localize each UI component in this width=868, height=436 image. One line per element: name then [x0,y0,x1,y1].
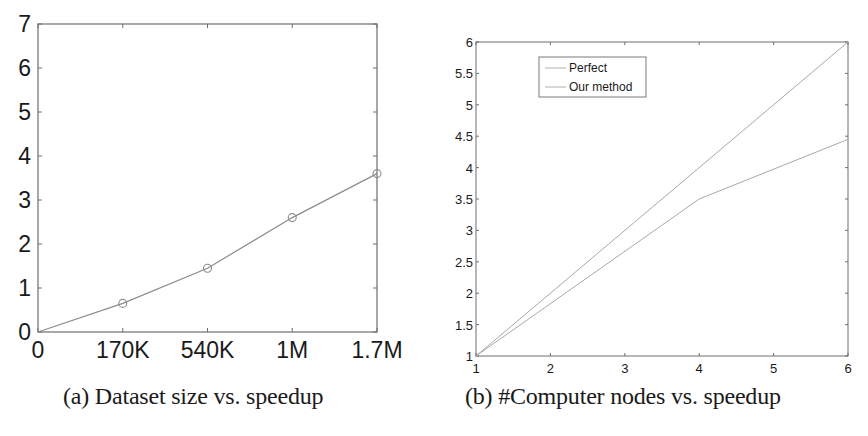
y-tick-label: 2 [18,231,31,257]
x-tick-label: 1.7M [351,337,402,363]
x-tick-label: 1 [472,361,479,376]
series-line-our-method [476,139,848,356]
y-tick-label: 1.5 [455,318,473,333]
x-tick-label: 170K [96,337,150,363]
y-tick-label: 0 [18,319,31,345]
caption-a: (a) Dataset size vs. speedup [63,383,323,410]
chart-dataset-size-vs-speedup: 012345670170K540K1M1.7M [18,11,402,363]
legend-label: Perfect [569,61,608,75]
y-tick-label: 5 [18,99,31,125]
x-tick-label: 2 [547,361,554,376]
caption-b: (b) #Computer nodes vs. speedup [465,383,781,410]
figure: 012345670170K540K1M1.7M 11.522.533.544.5… [0,0,868,436]
series-line [38,174,377,332]
x-tick-label: 6 [844,361,851,376]
chart-computer-nodes-vs-speedup: 11.522.533.544.555.56123456PerfectOur me… [455,35,852,376]
y-tick-label: 5.5 [455,66,473,81]
x-tick-label: 540K [181,337,235,363]
x-tick-label: 5 [770,361,777,376]
x-tick-label: 4 [696,361,703,376]
y-tick-label: 3 [18,187,31,213]
y-tick-label: 5 [466,98,473,113]
legend-label: Our method [569,80,632,94]
x-tick-label: 3 [621,361,628,376]
y-tick-label: 7 [18,11,31,37]
y-tick-label: 3.5 [455,192,473,207]
series-line-perfect [476,42,848,356]
y-tick-label: 6 [18,55,31,81]
x-tick-label: 0 [32,337,45,363]
y-tick-label: 2.5 [455,255,473,270]
x-tick-label: 1M [276,337,308,363]
y-tick-label: 1 [18,275,31,301]
y-tick-label: 6 [466,35,473,50]
y-tick-label: 4 [18,143,31,169]
y-tick-label: 4 [466,161,473,176]
plot-frame [38,24,377,332]
y-tick-label: 3 [466,223,473,238]
legend: PerfectOur method [539,57,646,97]
y-tick-label: 2 [466,286,473,301]
y-tick-label: 4.5 [455,129,473,144]
